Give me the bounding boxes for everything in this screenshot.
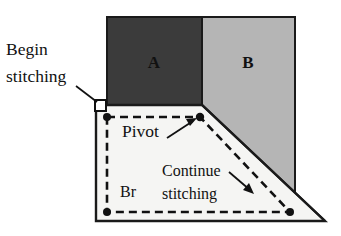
continue-stitching-label-line2: stitching bbox=[162, 185, 217, 203]
stitch-start-dot bbox=[103, 113, 111, 121]
begin-stitching-label-line1: Begin bbox=[6, 39, 48, 59]
bottom-right-dot bbox=[286, 208, 294, 216]
continue-stitching-label-line1: Continue bbox=[162, 162, 221, 179]
begin-stitching-label-line2: stitching bbox=[6, 66, 67, 86]
patch-b-label: B bbox=[242, 53, 253, 72]
pivot-label: Pivot bbox=[122, 121, 159, 141]
begin-stitching-leader-line bbox=[76, 86, 97, 102]
quilt-diagram-svg: A B Br Begin stitching Pivot Continue st… bbox=[0, 0, 341, 236]
diagram-canvas: A B Br Begin stitching Pivot Continue st… bbox=[0, 0, 341, 236]
pivot-dot bbox=[196, 113, 204, 121]
bottom-left-dot bbox=[103, 208, 111, 216]
patch-br-label: Br bbox=[120, 183, 137, 200]
patch-a-label: A bbox=[148, 53, 161, 72]
